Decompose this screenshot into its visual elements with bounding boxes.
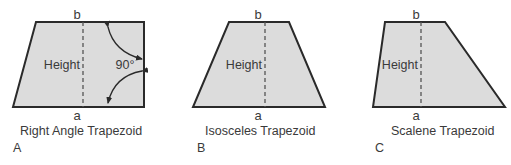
top-label-c: b <box>412 7 419 22</box>
height-label-c: Height <box>382 58 419 72</box>
caption-b: Isosceles Trapezoid <box>205 124 316 138</box>
figure-letter-a: A <box>13 141 22 155</box>
figure-right-angle-trapezoid: b a Height 90° Right Angle Trapezoid A <box>13 7 144 155</box>
figure-scalene-trapezoid: b a Height Scalene Trapezoid C <box>373 7 505 155</box>
top-label-a: b <box>73 7 80 22</box>
caption-a: Right Angle Trapezoid <box>20 124 142 138</box>
figure-letter-b: B <box>197 141 205 155</box>
height-label-a: Height <box>44 58 81 72</box>
bottom-label-a: a <box>73 108 81 123</box>
height-label-b: Height <box>226 58 263 72</box>
trapezoid-diagram: b a Height 90° Right Angle Trapezoid A b… <box>0 0 511 165</box>
angle-label-a: 90° <box>116 58 135 72</box>
top-label-b: b <box>254 7 261 22</box>
caption-c: Scalene Trapezoid <box>391 124 495 138</box>
figure-letter-c: C <box>375 141 384 155</box>
bottom-label-c: a <box>412 108 420 123</box>
figure-isosceles-trapezoid: b a Height Isosceles Trapezoid B <box>193 7 325 155</box>
bottom-label-b: a <box>254 108 262 123</box>
